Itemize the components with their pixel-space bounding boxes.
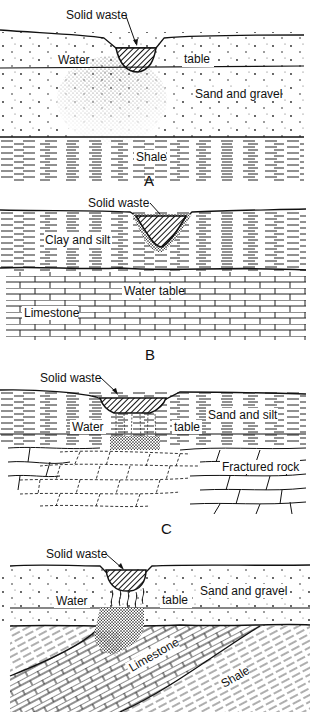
groundwater-contamination-diagram: Solid waste Water table Sand and gravel … [0, 0, 312, 712]
label-sand-silt: Sand and silt [208, 408, 278, 422]
fractured-rock-contaminated [20, 451, 200, 506]
label-water-table: Water table [124, 284, 185, 298]
label-solid-waste: Solid waste [66, 8, 128, 22]
panel-d: Solid waste Sand and gravel Water table … [0, 547, 310, 712]
waste-pit [100, 398, 166, 413]
label-sand-gravel: Sand and gravel [200, 584, 287, 598]
label-solid-waste: Solid waste [40, 371, 102, 385]
label-solid-waste: Solid waste [46, 547, 108, 561]
label-water: Water [58, 53, 90, 67]
label-table: table [162, 593, 188, 607]
label-limestone: Limestone [24, 306, 80, 320]
panel-c: Solid waste Sand and silt Water table Fr… [0, 371, 306, 537]
panel-b: Solid waste Clay and silt Water table Li… [0, 196, 306, 363]
label-table: table [174, 420, 200, 434]
label-clay-silt: Clay and silt [45, 233, 111, 247]
label-solid-waste: Solid waste [88, 196, 150, 210]
contamination-plume [110, 436, 160, 450]
label-table: table [184, 52, 210, 66]
fractured-rock-layer [8, 447, 306, 514]
label-fractured-rock: Fractured rock [222, 460, 300, 474]
label-water: Water [72, 420, 104, 434]
panel-a: Solid waste Water table Sand and gravel … [0, 8, 304, 189]
panel-letter-b: B [145, 346, 155, 363]
label-shale: Shale [136, 150, 167, 164]
label-sand-gravel: Sand and gravel [195, 87, 282, 101]
label-water: Water [56, 594, 88, 608]
panel-letter-c: C [161, 520, 172, 537]
panel-letter-a: A [144, 172, 154, 189]
